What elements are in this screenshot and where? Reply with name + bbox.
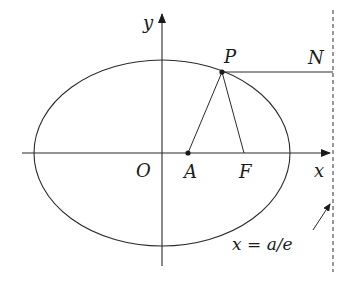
x-axis-label: x bbox=[314, 160, 324, 181]
directrix-equation-label: x = a/e bbox=[232, 234, 293, 254]
point-n-label: N bbox=[307, 47, 325, 68]
point-p bbox=[219, 69, 224, 74]
ellipse-diagram: y x O P N A F x = a/e bbox=[0, 0, 355, 282]
point-a-label: A bbox=[182, 161, 197, 182]
point-a bbox=[185, 150, 190, 155]
point-p-label: P bbox=[223, 46, 237, 67]
segment-pf bbox=[222, 72, 244, 153]
y-axis-label: y bbox=[142, 12, 154, 33]
segment-pa bbox=[188, 72, 222, 153]
point-f-label: F bbox=[238, 161, 253, 182]
origin-label: O bbox=[136, 160, 151, 181]
directrix-annotation-arrow bbox=[313, 204, 330, 230]
